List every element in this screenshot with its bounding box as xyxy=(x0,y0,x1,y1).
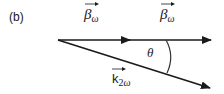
k-vector xyxy=(58,40,210,88)
beta-label-left: βω xyxy=(84,6,99,22)
vector-arrow-icon xyxy=(161,2,175,6)
angle-arc xyxy=(166,40,171,73)
k-label: k2ω xyxy=(112,70,131,86)
beta-label-right: βω xyxy=(160,6,175,22)
vector-arrow-icon xyxy=(85,2,99,6)
panel-label: (b) xyxy=(9,11,24,23)
theta-label: θ xyxy=(147,46,153,59)
vector-arrow-icon xyxy=(112,67,126,71)
